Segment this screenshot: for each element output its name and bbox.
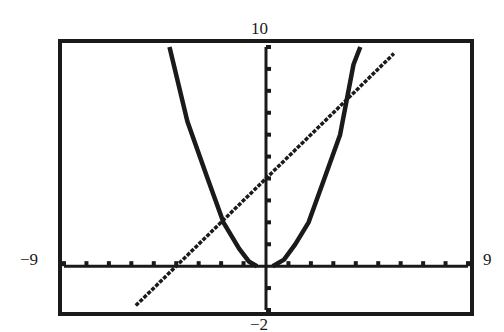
y-tick: [266, 133, 271, 137]
x-tick: [242, 261, 246, 266]
x-tick: [62, 261, 66, 266]
left-curve-graph: [170, 47, 258, 266]
x-tick: [129, 261, 133, 266]
y-max-label: 10: [251, 20, 268, 37]
x-tick: [197, 261, 201, 266]
x-tick: [354, 261, 358, 266]
x-tick: [84, 261, 88, 266]
y-tick: [266, 45, 271, 49]
x-tick: [286, 261, 290, 266]
x-tick: [444, 261, 448, 266]
y-tick: [266, 111, 271, 115]
x-tick: [107, 261, 111, 266]
y-tick: [266, 220, 271, 224]
y-tick: [266, 198, 271, 202]
x-tick: [376, 261, 380, 266]
right-curve-graph: [273, 47, 361, 266]
y-tick: [266, 242, 271, 246]
x-tick: [421, 261, 425, 266]
y-tick: [266, 89, 271, 93]
x-tick: [309, 261, 313, 266]
y-tick: [266, 155, 271, 159]
graph-window: [0, 0, 504, 332]
y-tick: [266, 308, 271, 312]
y-tick: [266, 286, 271, 290]
x-max-label: 9: [483, 251, 492, 268]
x-tick: [399, 261, 403, 266]
y-tick: [266, 67, 271, 71]
x-tick: [466, 261, 470, 266]
x-min-label: −9: [20, 251, 38, 268]
y-min-label: −2: [250, 316, 268, 332]
x-tick: [331, 261, 335, 266]
x-tick: [219, 261, 223, 266]
x-tick: [152, 261, 156, 266]
